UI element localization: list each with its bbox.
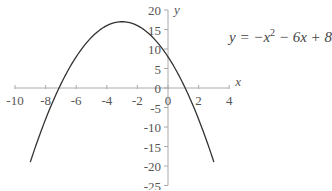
tick-labels: -10-8-6-4-202420151050-5-10-15-20-25xy xyxy=(6,2,241,190)
y-tick-label: -5 xyxy=(150,101,161,116)
x-tick-label: 0 xyxy=(165,93,172,108)
x-axis-label: x xyxy=(234,74,241,89)
y-tick-label: 5 xyxy=(155,62,162,77)
x-tick-label: 2 xyxy=(195,93,202,108)
x-tick-label: -10 xyxy=(6,93,23,108)
y-tick-label: 0 xyxy=(155,81,162,96)
parabola-curve xyxy=(30,22,214,162)
y-tick-label: -20 xyxy=(144,159,161,174)
y-tick-label: -25 xyxy=(144,179,161,191)
y-axis-label: y xyxy=(172,2,180,17)
equation-label: y = −x2 − 6x + 8 xyxy=(229,27,332,46)
y-tick-label: 20 xyxy=(148,3,161,18)
x-tick-label: -8 xyxy=(40,93,51,108)
x-tick-label: -6 xyxy=(71,93,82,108)
y-tick-label: -10 xyxy=(144,120,161,135)
x-tick-label: 4 xyxy=(226,93,233,108)
x-tick-label: -4 xyxy=(101,93,112,108)
x-tick-label: -2 xyxy=(132,93,143,108)
y-tick-label: -15 xyxy=(144,140,161,155)
